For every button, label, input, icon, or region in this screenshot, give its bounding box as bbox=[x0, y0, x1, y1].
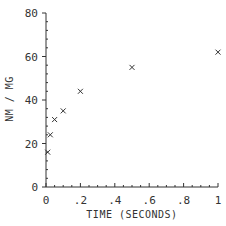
y-tick-label: 40 bbox=[25, 94, 38, 107]
y-axis-label: NM / MG bbox=[4, 76, 15, 122]
x-tick-label: .2 bbox=[74, 194, 87, 207]
y-tick-label: 0 bbox=[31, 181, 38, 194]
x-tick-label: 0 bbox=[43, 194, 50, 207]
x-axis-label: TIME (SECONDS) bbox=[86, 209, 177, 220]
x-tick-label: .4 bbox=[108, 194, 122, 207]
y-tick-label: 60 bbox=[25, 51, 38, 64]
data-points bbox=[45, 50, 220, 155]
x-marker-icon bbox=[48, 132, 53, 137]
x-tick-label: .6 bbox=[143, 194, 156, 207]
y-tick-label: 20 bbox=[25, 138, 38, 151]
axes: 0204060800.2.4.6.81 bbox=[25, 7, 222, 207]
x-marker-icon bbox=[78, 89, 83, 94]
x-marker-icon bbox=[216, 50, 221, 55]
x-marker-icon bbox=[52, 117, 57, 122]
scatter-chart: 0204060800.2.4.6.81 TIME (SECONDS) NM / … bbox=[0, 0, 226, 226]
x-marker-icon bbox=[61, 108, 66, 113]
y-tick-label: 80 bbox=[25, 7, 38, 20]
x-marker-icon bbox=[130, 65, 135, 70]
x-tick-label: 1 bbox=[215, 194, 222, 207]
x-tick-label: .8 bbox=[177, 194, 190, 207]
